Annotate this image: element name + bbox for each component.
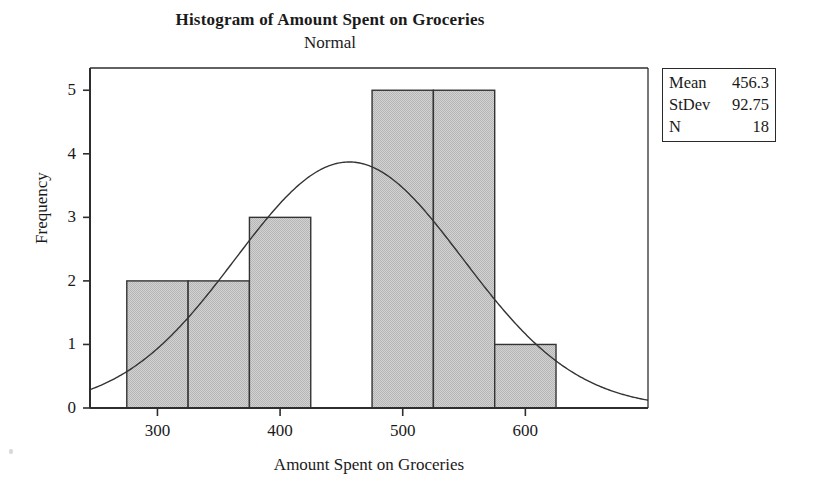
legend-key: StDev <box>669 94 710 116</box>
histogram-bar <box>127 281 188 408</box>
legend-value: 92.75 <box>732 94 769 116</box>
legend-row: Mean456.3 <box>669 72 769 94</box>
histogram-bars <box>127 90 556 408</box>
histogram-figure: Histogram of Amount Spent on Groceries N… <box>0 0 817 495</box>
legend-row: N18 <box>669 116 769 138</box>
histogram-bar <box>249 217 310 408</box>
legend-row: StDev92.75 <box>669 94 769 116</box>
legend-value: 456.3 <box>732 72 769 94</box>
histogram-bar <box>372 90 433 408</box>
histogram-bar <box>188 281 249 408</box>
legend-value: 18 <box>753 116 770 138</box>
legend-key: N <box>669 116 681 138</box>
histogram-bar <box>433 90 494 408</box>
statistics-legend: Mean456.3StDev92.75N18 <box>662 68 776 142</box>
scan-artifact <box>9 449 13 454</box>
legend-key: Mean <box>669 72 707 94</box>
